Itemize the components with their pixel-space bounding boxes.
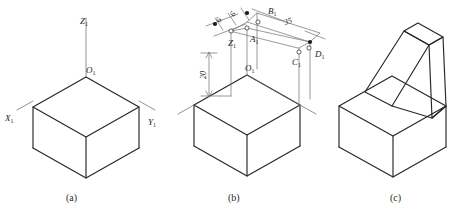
caption-b: (b) <box>228 192 240 204</box>
point-marker-d-filled <box>308 40 312 44</box>
panel-a: Z1 O1 X1 Y1 (a) <box>4 16 156 204</box>
point-label-b1: B1 <box>268 6 277 17</box>
box-top-face-a <box>33 77 139 137</box>
axis-label-x-a: X1 <box>4 113 14 124</box>
dimension-6-right: 6 <box>228 10 238 18</box>
dimension-20: 20 <box>199 71 208 79</box>
box-top-face-b <box>194 75 300 135</box>
backrest-top-cap-c <box>404 23 443 45</box>
backrest-seat-junction-c <box>392 106 432 118</box>
panel-b: B1 A1 Z1 D1 C1 O1 6 6 35 20 (b) <box>178 6 325 204</box>
axis-x-line-b <box>178 105 194 114</box>
point-marker-b2-hollow <box>256 20 260 24</box>
caption-a: (a) <box>66 192 77 204</box>
dimension-35: 35 <box>282 16 293 27</box>
point-label-d1: D1 <box>314 49 325 60</box>
axis-label-z-a: Z1 <box>80 16 88 27</box>
backrest-base-right-edge-c <box>432 106 446 118</box>
axis-x-line-a <box>17 101 33 110</box>
figure-sheet: Z1 O1 X1 Y1 (a) <box>0 0 471 218</box>
point-marker-b-filled <box>245 11 249 15</box>
axis-y-line-b <box>300 105 316 114</box>
caption-c: (c) <box>390 192 401 204</box>
axis-label-origin-a: O1 <box>86 65 96 76</box>
point-marker-c-hollow <box>297 50 301 54</box>
point-marker-d2-hollow <box>307 46 311 50</box>
point-label-o1-b: O1 <box>245 63 255 74</box>
point-label-c1: C1 <box>292 57 301 68</box>
point-label-z1: Z1 <box>228 38 236 49</box>
panel-c: (c) <box>339 23 446 204</box>
construction-face-lower-b <box>231 28 310 42</box>
point-marker-left-filled <box>213 22 217 26</box>
axis-y-line-a <box>139 101 155 110</box>
point-marker-a-hollow <box>245 26 249 30</box>
axis-label-y-a: Y1 <box>148 117 156 128</box>
backrest-front-slope-c <box>365 31 429 106</box>
box-far-diagonal-b <box>247 75 300 105</box>
backrest-right-face-c <box>429 37 446 118</box>
point-marker-z-hollow <box>229 29 233 33</box>
